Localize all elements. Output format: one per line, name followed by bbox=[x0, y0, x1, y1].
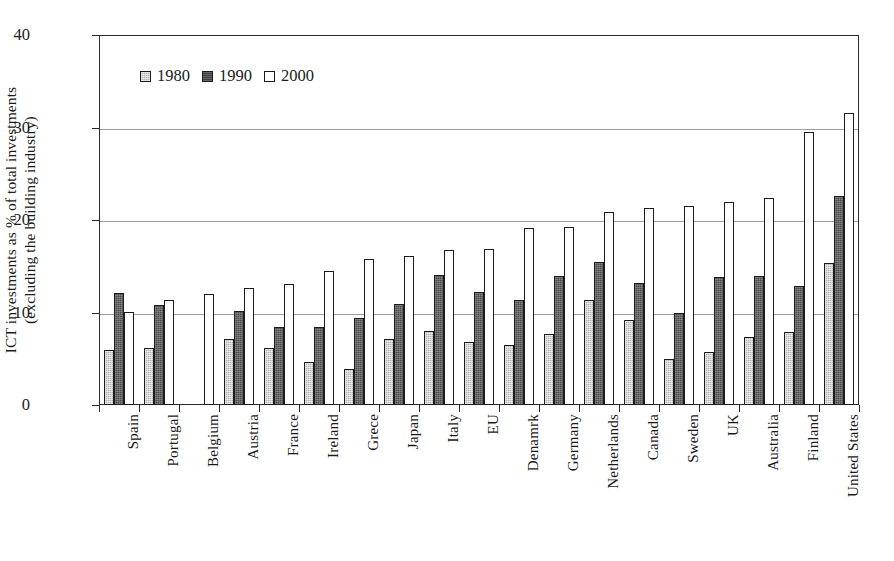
bar-group bbox=[219, 35, 259, 405]
x-label-netherlands: Netherlands bbox=[605, 414, 619, 554]
y-tick-mark-10 bbox=[92, 313, 99, 314]
bar-2000 bbox=[564, 227, 574, 405]
x-tick-mark bbox=[219, 405, 220, 412]
bar-2000 bbox=[484, 249, 494, 405]
x-tick-mark bbox=[99, 405, 100, 412]
x-tick-mark bbox=[139, 405, 140, 412]
bar-2000 bbox=[684, 206, 694, 405]
bar-2000 bbox=[404, 256, 414, 405]
x-label-germany: Germany bbox=[565, 414, 579, 554]
x-tick-mark bbox=[459, 405, 460, 412]
bar-2000 bbox=[844, 113, 854, 405]
y-tick-mark-40 bbox=[92, 35, 99, 36]
x-tick-mark bbox=[819, 405, 820, 412]
y-tick-label-40: 40 bbox=[0, 25, 30, 45]
bar-1990 bbox=[634, 283, 644, 405]
bar-2000 bbox=[524, 228, 534, 405]
x-label-belgium: Belgium bbox=[205, 414, 219, 554]
bar-1990 bbox=[674, 313, 684, 405]
bar-2000 bbox=[604, 212, 614, 405]
bar-2000 bbox=[284, 284, 294, 405]
y-tick-mark-30 bbox=[92, 128, 99, 129]
x-label-eu: EU bbox=[485, 414, 499, 554]
x-label-uk: UK bbox=[725, 414, 739, 554]
x-label-denamrk: Denamrk bbox=[525, 414, 539, 554]
legend-label: 1980 bbox=[157, 66, 190, 86]
x-label-finland: Finland bbox=[805, 414, 819, 554]
x-tick-mark bbox=[299, 405, 300, 412]
bar-1980 bbox=[824, 263, 834, 405]
bar-group bbox=[419, 35, 459, 405]
bar-1990 bbox=[514, 300, 524, 405]
bar-2000 bbox=[804, 132, 814, 405]
bar-1980 bbox=[584, 300, 594, 405]
bar-1980 bbox=[544, 334, 554, 405]
y-tick-label-30: 30 bbox=[0, 118, 30, 138]
legend-label: 2000 bbox=[281, 66, 314, 86]
x-tick-mark bbox=[619, 405, 620, 412]
bar-1980 bbox=[784, 332, 794, 405]
bar-group bbox=[779, 35, 819, 405]
bar-1980 bbox=[264, 348, 274, 405]
x-label-united-states: United States bbox=[845, 414, 859, 554]
ict-investment-bar-chart: ICT investments as % of total investment… bbox=[0, 0, 894, 561]
bar-group bbox=[499, 35, 539, 405]
y-tick-mark-0 bbox=[92, 405, 99, 406]
bar-1980 bbox=[104, 350, 114, 405]
bars-layer bbox=[99, 35, 859, 405]
x-label-portugal: Portugal bbox=[165, 414, 179, 554]
bar-1980 bbox=[424, 331, 434, 405]
bar-1980 bbox=[624, 320, 634, 405]
y-tick-mark-20 bbox=[92, 220, 99, 221]
x-label-canada: Canada bbox=[645, 414, 659, 554]
legend-label: 1990 bbox=[219, 66, 252, 86]
x-label-australia: Australia bbox=[765, 414, 779, 554]
bar-group bbox=[699, 35, 739, 405]
chart-legend: 198019902000 bbox=[140, 66, 314, 86]
bar-group bbox=[179, 35, 219, 405]
bar-2000 bbox=[124, 312, 134, 405]
bar-1990 bbox=[794, 286, 804, 405]
bar-2000 bbox=[204, 294, 214, 405]
x-label-italy: Italy bbox=[445, 414, 459, 554]
bar-group bbox=[379, 35, 419, 405]
legend-item-1980: 1980 bbox=[140, 66, 190, 86]
legend-item-1990: 1990 bbox=[202, 66, 252, 86]
x-label-sweden: Sweden bbox=[685, 414, 699, 554]
x-tick-mark bbox=[419, 405, 420, 412]
bar-group bbox=[259, 35, 299, 405]
bar-group bbox=[539, 35, 579, 405]
bar-group bbox=[99, 35, 139, 405]
bar-1980 bbox=[224, 339, 234, 405]
bar-1990 bbox=[354, 318, 364, 405]
bar-1990 bbox=[594, 262, 604, 405]
bar-2000 bbox=[364, 259, 374, 405]
bar-group bbox=[339, 35, 379, 405]
x-tick-mark bbox=[859, 405, 860, 412]
bar-group bbox=[819, 35, 859, 405]
bar-2000 bbox=[724, 202, 734, 405]
bar-1990 bbox=[434, 275, 444, 405]
x-tick-mark bbox=[499, 405, 500, 412]
x-tick-mark bbox=[179, 405, 180, 412]
x-tick-mark bbox=[779, 405, 780, 412]
bar-group bbox=[659, 35, 699, 405]
bar-2000 bbox=[644, 208, 654, 405]
x-label-ireland: Ireland bbox=[325, 414, 339, 554]
bar-1990 bbox=[314, 327, 324, 405]
y-tick-label-0: 0 bbox=[0, 395, 30, 415]
bar-2000 bbox=[164, 300, 174, 405]
bar-1980 bbox=[384, 339, 394, 405]
bar-group bbox=[139, 35, 179, 405]
bar-1980 bbox=[504, 345, 514, 405]
x-tick-mark bbox=[539, 405, 540, 412]
bar-1980 bbox=[344, 369, 354, 405]
legend-swatch-icon-2000 bbox=[264, 71, 275, 82]
legend-item-2000: 2000 bbox=[264, 66, 314, 86]
x-tick-mark bbox=[739, 405, 740, 412]
bar-group bbox=[459, 35, 499, 405]
bar-1980 bbox=[304, 362, 314, 405]
bar-group bbox=[619, 35, 659, 405]
bar-2000 bbox=[444, 250, 454, 405]
x-tick-mark bbox=[579, 405, 580, 412]
